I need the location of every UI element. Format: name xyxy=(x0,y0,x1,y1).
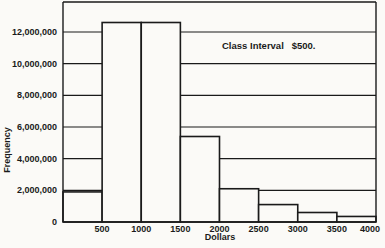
y-tick-label: 8,000,000 xyxy=(17,90,57,100)
histogram-bar xyxy=(180,137,219,223)
x-tick-label: 500 xyxy=(95,224,110,234)
histogram-bars xyxy=(63,23,376,223)
y-tick-label: 12,000,000 xyxy=(12,27,57,37)
x-tick-label: 1000 xyxy=(131,224,151,234)
histogram-bar xyxy=(102,23,141,223)
class-interval-annotation: Class Interval $500. xyxy=(222,40,315,51)
x-axis-ticks: 5001000150020002500300035004000 xyxy=(95,224,380,234)
y-tick-label: 0 xyxy=(52,217,57,227)
y-axis-label: Frequency xyxy=(2,127,12,173)
figure-caption-fragment xyxy=(0,240,385,248)
histogram-bar xyxy=(220,189,259,222)
histogram-bar xyxy=(337,216,376,222)
histogram-bar xyxy=(141,23,180,223)
x-tick-label: 2500 xyxy=(249,224,269,234)
x-tick-label: 3000 xyxy=(288,224,308,234)
y-axis-ticks: 02,000,0004,000,0006,000,0008,000,00010,… xyxy=(12,27,57,227)
y-tick-label: 6,000,000 xyxy=(17,122,57,132)
x-tick-label: 3500 xyxy=(327,224,347,234)
y-tick-label: 2,000,000 xyxy=(17,185,57,195)
histogram-bar xyxy=(63,192,102,222)
y-tick-label: 4,000,000 xyxy=(17,154,57,164)
histogram-chart: 02,000,0004,000,0006,000,0008,000,00010,… xyxy=(0,0,385,248)
x-tick-label: 4000 xyxy=(360,224,380,234)
histogram-bar xyxy=(259,205,298,222)
y-tick-label: 10,000,000 xyxy=(12,59,57,69)
histogram-bar xyxy=(298,213,337,223)
x-tick-label: 1500 xyxy=(170,224,190,234)
